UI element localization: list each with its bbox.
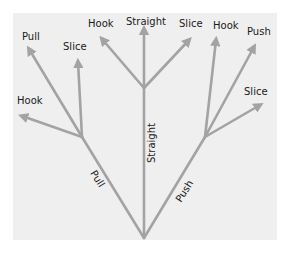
trunk-pull-line [82, 137, 144, 238]
label-straight-hook: Hook [88, 18, 114, 29]
label-push-push: Push [247, 26, 271, 37]
straight-slice-arrow [144, 40, 189, 88]
label-straight-straight: Straight [126, 16, 166, 27]
label-pull-hook: Hook [17, 95, 43, 106]
label-pull-pull: Pull [22, 31, 40, 42]
pull-pull-arrow [29, 49, 82, 137]
ball-flight-tree-diagram: Pull Slice Hook Hook Straight Slice Hook… [0, 0, 286, 256]
straight-hook-arrow [102, 39, 144, 88]
pull-hook-arrow [22, 116, 82, 137]
label-straight-slice: Slice [179, 18, 203, 29]
pull-slice-arrow [78, 62, 82, 137]
label-push-slice: Slice [244, 86, 268, 97]
label-trunk-straight: Straight [146, 123, 157, 163]
label-pull-slice: Slice [63, 41, 87, 52]
label-push-hook: Hook [213, 20, 239, 31]
